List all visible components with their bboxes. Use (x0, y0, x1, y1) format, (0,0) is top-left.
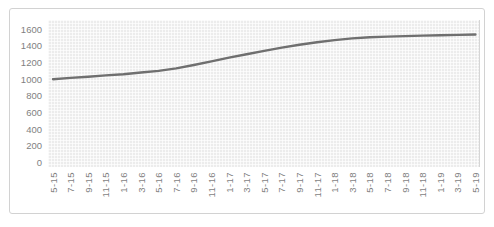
plot-area (48, 20, 480, 167)
chart-canvas: 02004006008001000120014001600 5-157-159-… (0, 0, 494, 227)
